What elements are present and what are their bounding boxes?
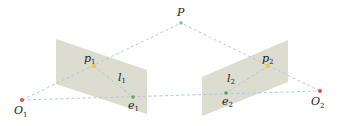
baseline-O1-O2 [22, 91, 320, 100]
camera-center-O1 [20, 98, 24, 102]
label-O2: O2 [311, 95, 325, 110]
image-plane-right [202, 40, 288, 116]
label-O1: O1 [14, 104, 28, 119]
point-P [180, 22, 183, 25]
epipolar-diagram: P O1 O2 p1 p2 l1 l2 e1 e2 [0, 0, 339, 126]
camera-center-O2 [318, 89, 322, 93]
label-P: P [176, 6, 185, 19]
